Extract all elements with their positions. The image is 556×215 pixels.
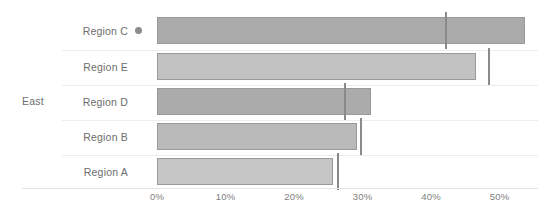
row-separator	[62, 50, 538, 51]
row-separator	[62, 120, 538, 121]
category-label-region-b: Region B	[83, 131, 128, 143]
row-highlight-dot-icon	[135, 27, 142, 34]
bar-region-e[interactable]	[157, 53, 476, 80]
x-tick-label-30: 30%	[353, 191, 373, 202]
x-tick-label-20: 20%	[284, 191, 304, 202]
target-marker-region-c	[445, 12, 447, 49]
x-tick-label-50: 50%	[490, 191, 510, 202]
bullet-bar-chart: East Region CRegion ERegion DRegion BReg…	[0, 0, 556, 215]
bar-region-c[interactable]	[157, 17, 525, 44]
category-label-region-e: Region E	[83, 61, 128, 73]
target-marker-region-a	[337, 153, 339, 190]
row-separator	[62, 85, 538, 86]
bar-region-a[interactable]	[157, 158, 333, 185]
bar-region-b[interactable]	[157, 123, 357, 150]
row-separator	[62, 155, 538, 156]
bar-region-d[interactable]	[157, 88, 371, 115]
target-marker-region-b	[360, 118, 362, 155]
axis-separator	[22, 188, 538, 189]
x-tick-label-10: 10%	[216, 191, 236, 202]
category-label-region-c: Region C	[83, 25, 128, 37]
group-label-east: East	[22, 95, 80, 107]
category-label-region-d: Region D	[83, 96, 128, 108]
x-tick-label-0: 0%	[150, 191, 164, 202]
target-marker-region-e	[488, 48, 490, 85]
x-tick-label-40: 40%	[421, 191, 441, 202]
category-label-region-a: Region A	[84, 166, 128, 178]
target-marker-region-d	[344, 83, 346, 120]
